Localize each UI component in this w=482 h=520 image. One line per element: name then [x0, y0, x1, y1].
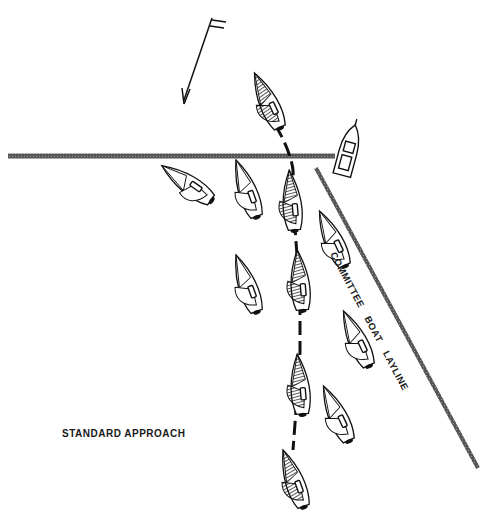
highlighted-boat-5	[270, 447, 313, 514]
diagram-title: STANDARD APPROACH	[62, 428, 186, 439]
sailboat-2	[223, 157, 266, 224]
sailboat-3	[307, 207, 354, 274]
highlighted-boat-4	[284, 353, 312, 418]
diagram-canvas	[0, 0, 482, 520]
highlighted-boat-3	[284, 249, 312, 314]
highlighted-boat-2	[276, 169, 304, 234]
sailboat-6	[311, 382, 358, 449]
sailboat-4	[223, 252, 266, 319]
sailboat-1	[154, 158, 219, 213]
wind-arrow-icon	[182, 18, 226, 104]
highlighted-boat-1	[242, 69, 289, 136]
committee-boat-icon	[333, 117, 365, 178]
